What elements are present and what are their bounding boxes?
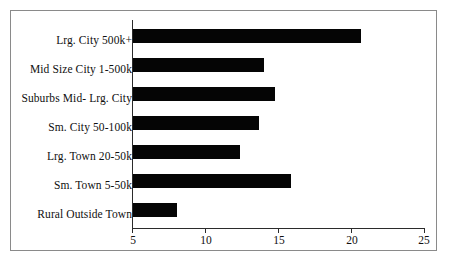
- bar-chart-plot-area: Lrg. City 500k+ Mid Size City 1-500k Sub…: [0, 0, 449, 262]
- bar-lrg-town: [133, 145, 240, 159]
- x-tick-mark-25: [424, 229, 425, 233]
- bar-mid-size-city: [133, 58, 264, 72]
- bar-rural: [133, 203, 177, 217]
- x-tick-mark-10: [205, 229, 206, 233]
- category-label-sm-town: Sm. Town 5-50k: [54, 178, 132, 192]
- bar-lrg-city: [133, 29, 361, 43]
- bar-suburbs: [133, 87, 275, 101]
- x-tick-label-20: 20: [346, 234, 358, 246]
- category-label-lrg-town: Lrg. Town 20-50k: [47, 149, 132, 163]
- x-tick-label-5: 5: [130, 234, 136, 246]
- category-label-lrg-city: Lrg. City 500k+: [56, 33, 132, 47]
- chart-screenshot: Lrg. City 500k+ Mid Size City 1-500k Sub…: [0, 0, 449, 262]
- x-tick-mark-15: [278, 229, 279, 233]
- category-label-mid-size-city: Mid Size City 1-500k: [30, 62, 132, 76]
- x-tick-mark-5: [132, 229, 133, 233]
- category-label-rural: Rural Outside Town: [37, 207, 132, 221]
- x-tick-label-10: 10: [200, 234, 212, 246]
- x-tick-label-25: 25: [418, 234, 430, 246]
- y-axis-line: [132, 20, 133, 229]
- category-label-suburbs: Suburbs Mid- Lrg. City: [21, 91, 132, 105]
- category-label-sm-city: Sm. City 50-100k: [48, 120, 132, 134]
- bar-sm-city: [133, 116, 259, 130]
- bar-sm-town: [133, 174, 291, 188]
- x-tick-mark-20: [351, 229, 352, 233]
- x-tick-label-15: 15: [273, 234, 285, 246]
